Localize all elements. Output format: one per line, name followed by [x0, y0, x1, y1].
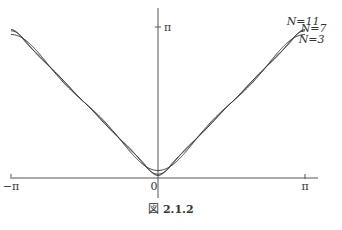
y-tick-label: π [164, 21, 171, 34]
series-label: N=3 [298, 33, 325, 46]
caption-number: 2.1.2 [163, 203, 194, 216]
chart: −π0ππN=3N=7N=11 [0, 0, 342, 230]
figure-caption: 図 2.1.2 [0, 200, 342, 216]
series-label: N=11 [286, 15, 320, 28]
caption-prefix: 図 [148, 203, 159, 216]
x-tick-label: 0 [151, 180, 158, 193]
x-tick-label: π [301, 180, 308, 193]
x-tick-label: −π [3, 180, 19, 193]
